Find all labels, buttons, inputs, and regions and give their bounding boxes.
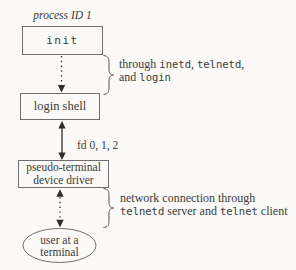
- init-label: init: [46, 34, 79, 47]
- text-segment: server and: [164, 204, 220, 218]
- arrowhead-down-icon: [58, 85, 65, 93]
- arrowhead-down-icon: [56, 220, 63, 228]
- code-segment: inetd: [159, 58, 191, 70]
- arrow-login-shell-pty: [58, 121, 65, 160]
- text-segment: network connection through: [120, 191, 255, 205]
- annotation-network-connection: network connection through telnetd serve…: [120, 192, 288, 218]
- pty-driver-line1: pseudo-terminal: [26, 161, 101, 174]
- code-segment: login: [139, 71, 171, 83]
- user-terminal-line2: terminal: [23, 246, 96, 259]
- annotation-through-inetd: through inetd, telnetd, and login: [119, 58, 244, 84]
- login-shell-box: login shell: [20, 93, 100, 120]
- fd-label: fd 0, 1, 2: [77, 139, 118, 152]
- text-segment: and: [119, 70, 139, 84]
- user-terminal-label: user at a terminal: [23, 234, 96, 259]
- arrowhead-up-icon: [56, 189, 63, 197]
- init-box: init: [22, 26, 103, 55]
- user-terminal-line1: user at a: [23, 234, 96, 247]
- pty-driver-box: pseudo-terminal device driver: [18, 160, 109, 188]
- login-shell-label: login shell: [34, 99, 86, 114]
- arrow-pty-user-terminal: [56, 189, 63, 227]
- process-id-label: process ID 1: [22, 9, 103, 21]
- code-segment: telnet: [220, 205, 258, 217]
- text-segment: through: [119, 57, 159, 71]
- arrow-init-to-login-shell: [58, 56, 65, 93]
- code-segment: telnetd: [120, 205, 164, 217]
- annotation-line: and login: [119, 71, 244, 84]
- pty-driver-line2: device driver: [33, 174, 93, 187]
- arrowhead-down-icon: [58, 153, 65, 161]
- code-segment: telnetd: [197, 58, 241, 70]
- text-segment: ,: [241, 57, 244, 71]
- text-segment: client: [258, 204, 288, 218]
- curly-brace-top-icon: [104, 56, 114, 95]
- arrowhead-up-icon: [58, 121, 65, 129]
- diagram-canvas: process ID 1 init login shell fd 0, 1, 2…: [0, 0, 296, 270]
- annotation-line: telnetd server and telnet client: [120, 205, 288, 218]
- curly-brace-bottom-icon: [104, 189, 114, 228]
